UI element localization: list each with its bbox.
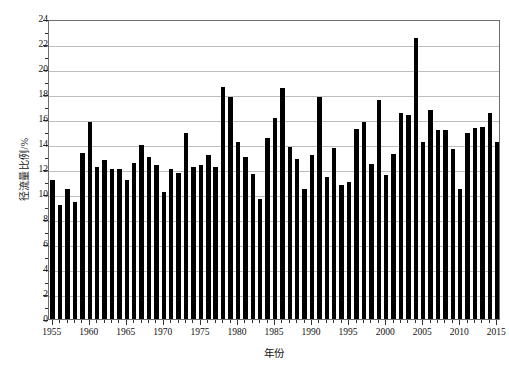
x-tick-mark-minor bbox=[363, 320, 364, 323]
x-tick-mark bbox=[311, 320, 312, 325]
x-tick-mark-minor bbox=[437, 320, 438, 323]
x-tick-mark-minor bbox=[81, 320, 82, 323]
x-tick-mark-minor bbox=[452, 320, 453, 323]
x-tick-mark-minor bbox=[192, 320, 193, 323]
x-axis-ticks: 1955196019651970197519801985199019952000… bbox=[0, 0, 509, 367]
x-tick-mark-minor bbox=[148, 320, 149, 323]
x-tick-label: 1960 bbox=[69, 327, 109, 337]
x-tick-mark bbox=[459, 320, 460, 325]
x-tick-mark-minor bbox=[341, 320, 342, 323]
x-tick-mark-minor bbox=[155, 320, 156, 323]
x-tick-mark-minor bbox=[393, 320, 394, 323]
x-tick-mark-minor bbox=[133, 320, 134, 323]
x-tick-mark-minor bbox=[259, 320, 260, 323]
x-tick-mark-minor bbox=[111, 320, 112, 323]
x-tick-mark-minor bbox=[252, 320, 253, 323]
x-tick-mark bbox=[422, 320, 423, 325]
x-tick-mark-minor bbox=[370, 320, 371, 323]
x-tick-mark-minor bbox=[407, 320, 408, 323]
x-tick-label: 1965 bbox=[106, 327, 146, 337]
x-tick-mark-minor bbox=[415, 320, 416, 323]
x-tick-mark bbox=[348, 320, 349, 325]
x-tick-mark-minor bbox=[481, 320, 482, 323]
x-tick-mark bbox=[385, 320, 386, 325]
x-tick-mark bbox=[496, 320, 497, 325]
x-tick-label: 1955 bbox=[32, 327, 72, 337]
x-tick-mark-minor bbox=[430, 320, 431, 323]
x-tick-label: 1980 bbox=[217, 327, 257, 337]
x-tick-mark-minor bbox=[318, 320, 319, 323]
x-tick-mark-minor bbox=[141, 320, 142, 323]
x-tick-label: 1970 bbox=[143, 327, 183, 337]
x-tick-mark bbox=[200, 320, 201, 325]
x-tick-mark-minor bbox=[74, 320, 75, 323]
x-tick-mark-minor bbox=[356, 320, 357, 323]
x-tick-mark bbox=[126, 320, 127, 325]
x-tick-mark-minor bbox=[378, 320, 379, 323]
x-tick-mark-minor bbox=[215, 320, 216, 323]
x-tick-label: 2015 bbox=[476, 327, 509, 337]
x-tick-mark-minor bbox=[185, 320, 186, 323]
x-tick-label: 1975 bbox=[180, 327, 220, 337]
x-tick-label: 1985 bbox=[254, 327, 294, 337]
x-tick-mark-minor bbox=[333, 320, 334, 323]
x-tick-mark-minor bbox=[489, 320, 490, 323]
x-tick-mark-minor bbox=[59, 320, 60, 323]
x-tick-mark-minor bbox=[289, 320, 290, 323]
x-tick-mark-minor bbox=[296, 320, 297, 323]
x-tick-mark bbox=[89, 320, 90, 325]
x-tick-mark-minor bbox=[326, 320, 327, 323]
x-tick-mark-minor bbox=[474, 320, 475, 323]
x-tick-mark-minor bbox=[281, 320, 282, 323]
x-tick-label: 1995 bbox=[328, 327, 368, 337]
x-tick-mark-minor bbox=[400, 320, 401, 323]
x-tick-mark-minor bbox=[467, 320, 468, 323]
x-tick-mark-minor bbox=[304, 320, 305, 323]
x-tick-mark-minor bbox=[222, 320, 223, 323]
x-axis-title: 年份 bbox=[48, 345, 500, 360]
x-tick-mark-minor bbox=[118, 320, 119, 323]
x-tick-label: 2010 bbox=[439, 327, 479, 337]
x-tick-mark bbox=[237, 320, 238, 325]
x-tick-mark-minor bbox=[178, 320, 179, 323]
x-tick-label: 1990 bbox=[291, 327, 331, 337]
runoff-ratio-bar-chart: 径流量比例/% 024681012141618202224 1955196019… bbox=[0, 0, 509, 367]
x-tick-mark-minor bbox=[207, 320, 208, 323]
x-tick-mark-minor bbox=[244, 320, 245, 323]
x-tick-label: 2000 bbox=[365, 327, 405, 337]
x-tick-mark-minor bbox=[230, 320, 231, 323]
x-tick-mark bbox=[163, 320, 164, 325]
x-tick-mark-minor bbox=[267, 320, 268, 323]
x-tick-mark bbox=[52, 320, 53, 325]
x-tick-mark-minor bbox=[67, 320, 68, 323]
x-tick-mark-minor bbox=[444, 320, 445, 323]
x-tick-label: 2005 bbox=[402, 327, 442, 337]
x-tick-mark-minor bbox=[104, 320, 105, 323]
x-tick-mark bbox=[274, 320, 275, 325]
x-tick-mark-minor bbox=[170, 320, 171, 323]
x-tick-mark-minor bbox=[96, 320, 97, 323]
